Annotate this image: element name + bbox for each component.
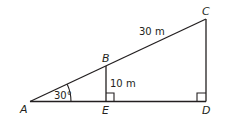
- point-label-d: D: [202, 104, 210, 117]
- point-label-b: B: [102, 52, 110, 65]
- point-label-c: C: [202, 5, 210, 18]
- point-label-e: E: [102, 104, 109, 117]
- right-angle-marker-d: [197, 93, 206, 102]
- right-angle-marker-e: [106, 93, 114, 102]
- triangle-diagram: A B C D E 30 m 10 m 30°: [0, 0, 225, 128]
- point-label-a: A: [19, 103, 28, 116]
- measurement-be: 10 m: [110, 78, 136, 89]
- measurement-ac: 30 m: [139, 26, 165, 37]
- measurement-angle-a: 30°: [54, 90, 72, 101]
